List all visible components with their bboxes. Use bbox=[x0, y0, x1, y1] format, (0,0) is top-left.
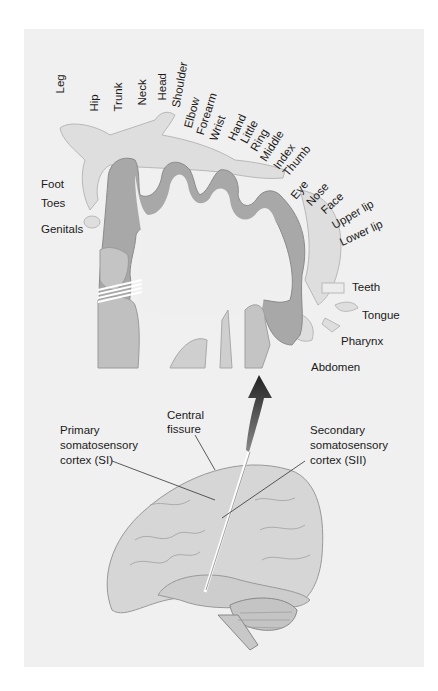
leader-line-central bbox=[195, 435, 215, 470]
label-primary-line2: somatosensory bbox=[60, 440, 138, 452]
label-tongue: Tongue bbox=[362, 310, 400, 322]
label-secondary-line3: cortex (SII) bbox=[310, 455, 366, 467]
label-primary-line3: cortex (SI) bbox=[60, 455, 113, 467]
label-foot: Foot bbox=[41, 179, 64, 191]
brain-illustration bbox=[107, 435, 323, 650]
label-secondary-line2: somatosensory bbox=[310, 440, 388, 452]
label-head: Head bbox=[157, 73, 169, 101]
label-hip: Hip bbox=[89, 94, 101, 111]
label-abdomen: Abdomen bbox=[311, 362, 360, 374]
label-toes: Toes bbox=[41, 198, 65, 210]
upward-arrow bbox=[246, 375, 272, 452]
label-leg: Leg bbox=[55, 74, 67, 93]
label-central-line2: fissure bbox=[167, 424, 201, 436]
label-primary-line1: Primary bbox=[60, 425, 100, 437]
label-neck: Neck bbox=[137, 79, 149, 105]
label-trunk: Trunk bbox=[113, 83, 125, 112]
label-central-line1: Central bbox=[167, 410, 204, 422]
label-pharynx: Pharynx bbox=[341, 336, 383, 348]
label-teeth: Teeth bbox=[352, 282, 380, 294]
cortex-section bbox=[98, 158, 305, 368]
label-secondary-line1: Secondary bbox=[310, 425, 365, 437]
label-genitals: Genitals bbox=[41, 224, 83, 236]
